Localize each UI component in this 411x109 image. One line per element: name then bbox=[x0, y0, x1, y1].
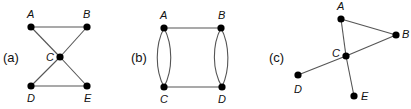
edge-a-BC bbox=[60, 27, 87, 57]
vertex-b-D bbox=[218, 83, 225, 90]
vertex-a-D bbox=[27, 82, 34, 89]
edge-b-AC-right bbox=[164, 28, 171, 87]
edge-b-AC-left bbox=[157, 28, 164, 87]
vertex-a-E bbox=[83, 82, 90, 89]
edge-c-CE bbox=[346, 56, 354, 96]
graph-b: (b) A B C D bbox=[131, 9, 228, 105]
edge-c-BC bbox=[346, 35, 396, 56]
graph-a: (a) A B C D E bbox=[3, 8, 92, 104]
vertex-label-a-C: C bbox=[46, 51, 54, 63]
vertex-c-B bbox=[392, 31, 399, 38]
vertex-label-c-B: B bbox=[402, 28, 409, 40]
vertex-label-b-A: A bbox=[159, 9, 167, 21]
graph-c-label: (c) bbox=[269, 50, 284, 65]
vertex-label-b-C: C bbox=[160, 93, 168, 105]
graph-b-label: (b) bbox=[131, 50, 147, 65]
edge-c-AB bbox=[341, 19, 396, 35]
vertex-label-a-D: D bbox=[27, 92, 35, 104]
graph-a-label: (a) bbox=[3, 50, 19, 65]
vertex-label-b-D: D bbox=[218, 93, 226, 105]
vertex-label-c-C: C bbox=[332, 47, 340, 59]
vertex-b-A bbox=[160, 24, 167, 31]
edge-c-AC bbox=[341, 19, 346, 56]
vertex-label-c-A: A bbox=[336, 0, 344, 12]
graph-figure: (a) A B C D E (b) A B C D (c) bbox=[0, 0, 411, 109]
vertex-label-a-B: B bbox=[83, 8, 90, 20]
vertex-c-E bbox=[350, 92, 357, 99]
vertex-a-C bbox=[56, 53, 63, 60]
graph-c: (c) A B C D E bbox=[269, 0, 409, 102]
vertex-b-B bbox=[217, 24, 224, 31]
vertex-a-A bbox=[27, 23, 34, 30]
vertex-label-a-A: A bbox=[26, 8, 34, 20]
vertex-c-D bbox=[294, 71, 301, 78]
vertex-c-A bbox=[337, 15, 344, 22]
vertex-c-C bbox=[342, 52, 349, 59]
edge-b-BD-right bbox=[221, 28, 228, 87]
edge-b-BD-left bbox=[214, 28, 222, 87]
vertex-label-a-E: E bbox=[84, 92, 92, 104]
edge-a-CE bbox=[60, 57, 87, 86]
vertex-b-C bbox=[160, 83, 167, 90]
vertex-label-c-D: D bbox=[294, 83, 302, 95]
vertex-label-c-E: E bbox=[361, 90, 369, 102]
vertex-label-b-B: B bbox=[218, 9, 225, 21]
vertex-a-B bbox=[83, 23, 90, 30]
